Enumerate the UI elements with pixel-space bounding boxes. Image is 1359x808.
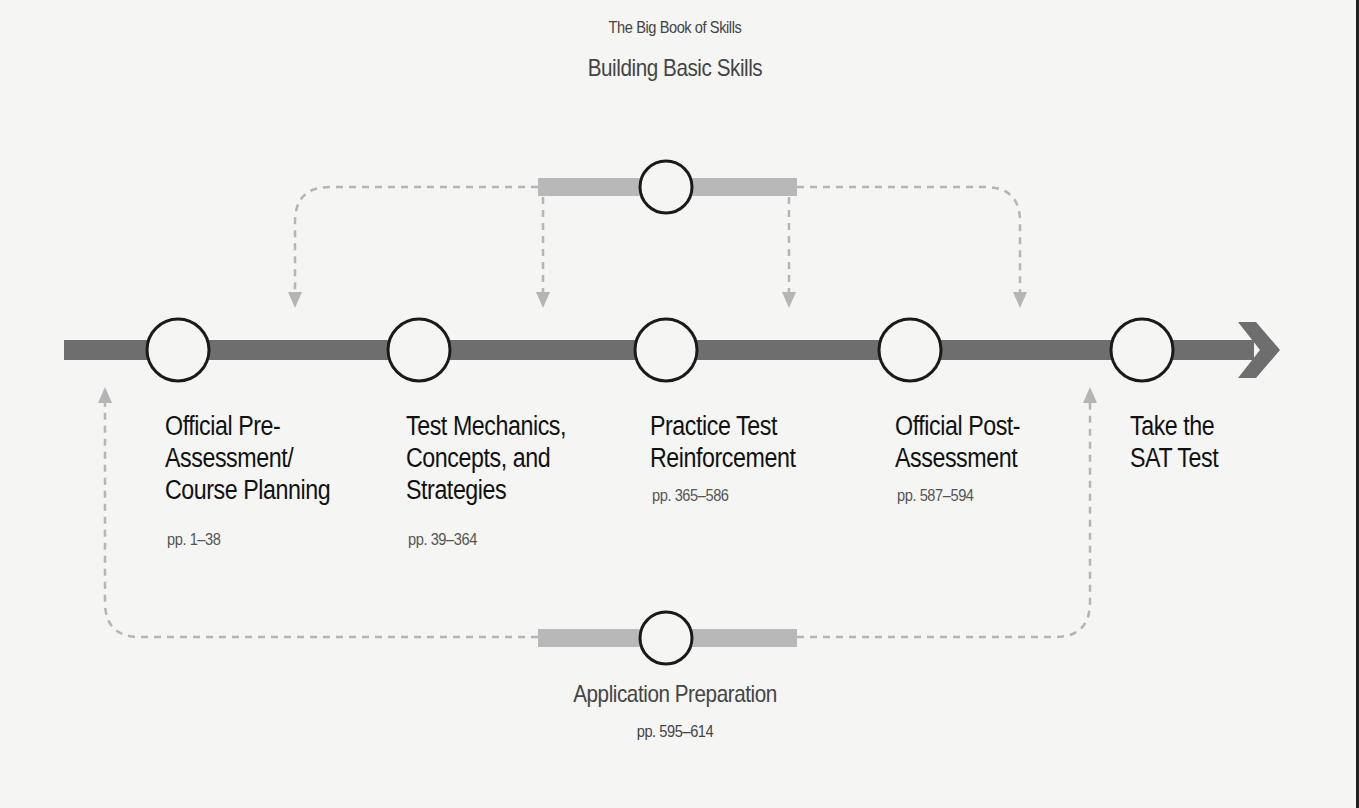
- stage-5-label: Take theSAT Test: [1130, 410, 1218, 474]
- top-branch-node: [640, 161, 692, 213]
- stage-3-label: Practice TestReinforcement: [650, 410, 795, 474]
- stage-4-label: Official Post-Assessment: [895, 410, 1020, 474]
- stage-2-label: Test Mechanics,Concepts, andStrategies: [406, 410, 566, 506]
- stage-1-label: Official Pre-Assessment/Course Planning: [165, 410, 330, 506]
- stage-1-pages: pp. 1–38: [167, 530, 220, 550]
- stage-4-node: [879, 319, 941, 381]
- stage-1-node: [147, 319, 209, 381]
- stage-4-pages: pp. 587–594: [897, 486, 974, 506]
- top-branch-subtitle: The Big Book of Skills: [576, 18, 774, 38]
- stage-3-pages: pp. 365–586: [652, 486, 729, 506]
- top-branch-title: Building Basic Skills: [550, 54, 799, 82]
- stage-2-node: [388, 319, 450, 381]
- bottom-branch-pages: pp. 595–614: [585, 722, 766, 742]
- bottom-branch-node: [640, 612, 692, 664]
- stage-2-pages: pp. 39–364: [408, 530, 477, 550]
- bottom-branch-title: Application Preparation: [542, 680, 809, 708]
- stage-5-node: [1111, 319, 1173, 381]
- stage-3-node: [635, 319, 697, 381]
